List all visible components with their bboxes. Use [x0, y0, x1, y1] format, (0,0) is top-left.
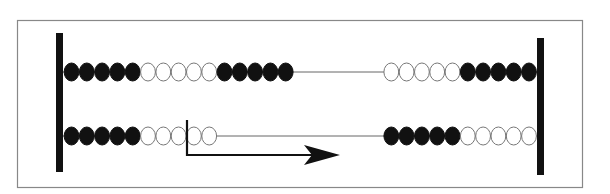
bead-empty-row-1-left-8	[187, 63, 202, 81]
bead-empty-row-2-right-5	[460, 127, 475, 145]
bead-filled-row-1-left-4	[125, 63, 140, 81]
bead-empty-row-1-right-0	[384, 63, 399, 81]
bead-filled-row-1-left-13	[263, 63, 278, 81]
bead-filled-row-1-right-6	[476, 63, 491, 81]
bead-empty-row-1-right-4	[445, 63, 460, 81]
bead-filled-row-2-right-3	[430, 127, 445, 145]
right-post	[537, 38, 544, 175]
bead-filled-row-2-left-3	[110, 127, 125, 145]
diagram-canvas	[0, 0, 610, 194]
bead-empty-row-1-right-2	[415, 63, 430, 81]
bead-filled-row-1-left-12	[248, 63, 263, 81]
bead-empty-row-2-left-9	[202, 127, 217, 145]
bead-filled-row-2-left-0	[64, 127, 79, 145]
bead-empty-row-1-left-7	[171, 63, 186, 81]
bead-filled-row-1-left-11	[232, 63, 247, 81]
bead-empty-row-2-right-8	[506, 127, 521, 145]
bead-empty-row-2-left-6	[156, 127, 171, 145]
bead-filled-row-2-right-1	[399, 127, 414, 145]
bead-empty-row-1-left-5	[141, 63, 156, 81]
bead-filled-row-1-left-10	[217, 63, 232, 81]
bead-empty-row-2-right-6	[476, 127, 491, 145]
bead-empty-row-2-left-8	[187, 127, 202, 145]
bead-filled-row-2-right-2	[415, 127, 430, 145]
bead-filled-row-2-right-4	[445, 127, 460, 145]
bead-filled-row-1-left-0	[64, 63, 79, 81]
bead-filled-row-2-left-1	[79, 127, 94, 145]
bead-filled-row-2-left-2	[95, 127, 110, 145]
bead-filled-row-2-right-0	[384, 127, 399, 145]
bead-empty-row-2-left-5	[141, 127, 156, 145]
bead-filled-row-1-left-14	[278, 63, 293, 81]
bead-filled-row-1-right-8	[506, 63, 521, 81]
bead-filled-row-1-right-7	[491, 63, 506, 81]
bead-filled-row-2-left-4	[125, 127, 140, 145]
wires	[63, 72, 537, 136]
bead-empty-row-1-left-9	[202, 63, 217, 81]
diagram-frame	[18, 21, 583, 188]
bead-empty-row-1-right-1	[399, 63, 414, 81]
bead-rack-diagram	[0, 0, 610, 194]
bead-empty-row-2-right-9	[522, 127, 537, 145]
bead-filled-row-1-left-3	[110, 63, 125, 81]
bead-empty-row-1-left-6	[156, 63, 171, 81]
bead-filled-row-1-left-1	[79, 63, 94, 81]
bead-filled-row-1-right-5	[460, 63, 475, 81]
bead-filled-row-1-left-2	[95, 63, 110, 81]
bead-empty-row-2-right-7	[491, 127, 506, 145]
bead-empty-row-1-right-3	[430, 63, 445, 81]
beads	[64, 63, 536, 145]
bead-empty-row-2-left-7	[171, 127, 186, 145]
bead-filled-row-1-right-9	[522, 63, 537, 81]
left-post	[56, 33, 63, 172]
